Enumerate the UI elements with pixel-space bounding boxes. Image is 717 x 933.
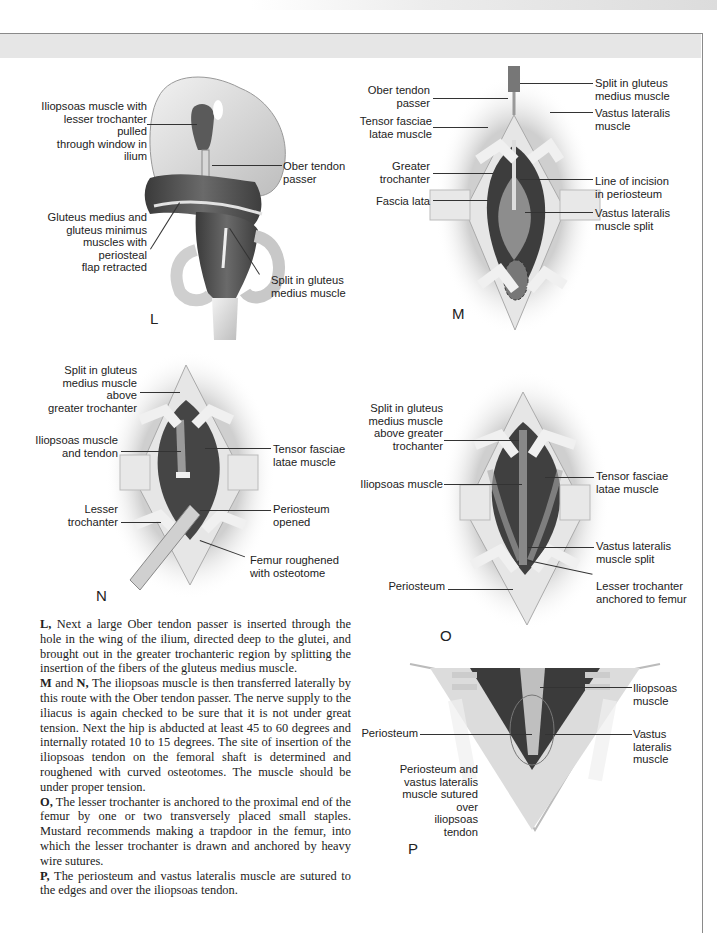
leader-line — [545, 477, 594, 478]
label-vastus-lateralis-muscle: Vastus lateralis muscle — [595, 107, 695, 132]
caption-text: The periosteum and vastus lateralis musc… — [40, 869, 351, 898]
label-periosteum-vastus-sutured: Periosteum and vastus lateralis muscle s… — [380, 763, 478, 838]
label-fascia-lata: Fascia lata — [360, 195, 430, 208]
label-periosteum: Periosteum — [360, 727, 418, 740]
leader-line — [420, 734, 532, 735]
label-gluteus-medius-minimus: Gluteus medius and gluteus minimus muscl… — [34, 211, 147, 274]
leader-line — [545, 734, 632, 735]
figure-letter-p: P — [408, 840, 418, 857]
caption-paragraph-l: L, Next a large Ober tendon passer is in… — [40, 617, 351, 676]
caption-key: O, — [40, 795, 53, 809]
leader-line — [433, 127, 488, 128]
caption-text: Next a large Ober tendon passer is inser… — [40, 617, 351, 675]
label-vastus-lateralis-split: Vastus lateralis muscle split — [595, 207, 695, 232]
label-periosteum: Periosteum — [360, 580, 445, 593]
figure-letter-o: O — [440, 627, 452, 644]
caption-conjunction: and — [52, 676, 77, 690]
caption-key: L, — [40, 617, 51, 631]
label-femur-roughened: Femur roughened with osteotome — [250, 554, 355, 579]
leader-line — [147, 124, 197, 125]
leader-line — [550, 112, 593, 113]
label-ober-tendon-passer: Ober tendon passer — [283, 160, 358, 185]
leader-line — [433, 200, 488, 201]
caption-paragraph-p: P, The periosteum and vastus lateralis m… — [40, 869, 351, 899]
label-tensor-fasciae-latae: Tensor fasciae latae muscle — [596, 470, 696, 495]
label-split-gluteus-above-trochanter: Split in gluteus medius muscle above gre… — [30, 364, 137, 414]
label-vastus-lateralis-muscle: Vastus lateralis muscle — [633, 728, 698, 766]
label-iliopsoas-muscle: Iliopsoas muscle — [633, 682, 698, 707]
leader-line — [121, 522, 161, 523]
label-ober-tendon-passer: Ober tendon passer — [360, 84, 430, 109]
label-line-of-incision: Line of incision in periosteum — [595, 175, 695, 200]
figure-letter-m: M — [452, 305, 465, 322]
leader-line — [121, 451, 181, 452]
label-iliopsoas-and-tendon: Iliopsoas muscle and tendon — [30, 434, 118, 459]
leader-line — [444, 440, 519, 441]
caption-key: N, — [77, 676, 89, 690]
label-greater-trochanter: Greater trochanter — [360, 160, 430, 185]
caption-text: The iliopsoas muscle is then transferred… — [40, 676, 351, 794]
leader-line — [448, 589, 513, 590]
leader-line — [528, 547, 594, 548]
label-iliopsoas-lesser-trochanter: Iliopsoas muscle with lesser trochanter … — [34, 100, 147, 163]
leader-line — [520, 83, 593, 84]
figure-p: Iliopsoas muscle Vastus lateralis muscle… — [360, 660, 700, 870]
caption-text: The lesser trochanter is anchored to the… — [40, 795, 351, 868]
label-periosteum-opened: Periosteum opened — [273, 503, 358, 528]
leader-line — [205, 448, 271, 449]
leader-line — [212, 165, 282, 166]
leader-line — [433, 173, 493, 174]
figure-letter-l: L — [150, 310, 158, 327]
label-vastus-lateralis-split: Vastus lateralis muscle split — [596, 540, 696, 565]
label-split-gluteus-above-trochanter: Split in gluteus medius muscle above gre… — [360, 402, 443, 452]
label-tensor-fasciae-latae: Tensor fasciae latae muscle — [273, 443, 358, 468]
label-lesser-trochanter: Lesser trochanter — [30, 503, 118, 528]
leader-line — [540, 687, 632, 688]
label-iliopsoas-muscle: Iliopsoas muscle — [360, 478, 443, 491]
caption-paragraph-mn: M and N, The iliopsoas muscle is then tr… — [40, 676, 351, 794]
figure-n: Split in gluteus medius muscle above gre… — [0, 340, 360, 610]
figure-letter-n: N — [96, 587, 107, 604]
figure-caption: L, Next a large Ober tendon passer is in… — [40, 617, 351, 898]
leader-line — [444, 484, 522, 485]
figure-m: Ober tendon passer Tensor fasciae latae … — [360, 60, 700, 360]
leader-line — [520, 179, 593, 180]
caption-key: M — [40, 676, 52, 690]
caption-key: P, — [40, 869, 50, 883]
label-tensor-fasciae-latae: Tensor fasciae latae muscle — [352, 115, 432, 140]
label-split-gluteus-medius: Split in gluteus medius muscle — [595, 77, 695, 102]
figure-l: Iliopsoas muscle with lesser trochanter … — [0, 0, 360, 340]
caption-paragraph-o: O, The lesser trochanter is anchored to … — [40, 795, 351, 869]
label-lesser-trochanter-anchored: Lesser trochanter anchored to femur — [596, 580, 696, 605]
leader-line — [200, 510, 271, 511]
leader-line — [525, 212, 593, 213]
leader-line — [433, 98, 508, 99]
label-split-gluteus-medius: Split in gluteus medius muscle — [271, 274, 361, 299]
figure-o: Split in gluteus medius muscle above gre… — [360, 360, 700, 650]
leader-line — [140, 392, 180, 393]
